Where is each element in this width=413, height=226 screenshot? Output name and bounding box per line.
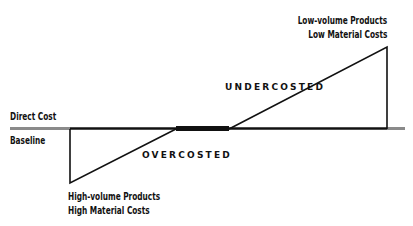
high-volume-label-line2: High Material Costs [68, 204, 150, 217]
undercosted-label: UNDERCOSTED [225, 82, 325, 92]
overcosted-label: OVERCOSTED [142, 150, 232, 160]
low-volume-label-line1: Low-volume Products [297, 14, 387, 27]
high-volume-label-line1: High-volume Products [68, 190, 160, 203]
direct-cost-label: Direct Cost [10, 110, 56, 123]
baseline-label: Baseline [10, 134, 45, 147]
low-volume-label-line2: Low Material Costs [308, 28, 387, 41]
